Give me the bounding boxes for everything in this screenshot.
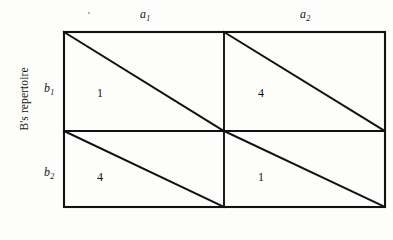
cell-diagonal-b2-a2 <box>224 131 385 207</box>
cell-diagonal-b1-a2 <box>224 32 385 131</box>
cell-value-b1-a2: 4 <box>253 86 269 101</box>
cell-diagonal-b2-a1 <box>64 131 224 207</box>
payoff-matrix-figure: B's repertoire a1 a2 b1 b2 1 4 4 1 <box>0 0 393 240</box>
matrix-grid <box>0 0 393 240</box>
cell-value-b2-a2: 1 <box>253 170 269 185</box>
cell-value-b2-a1: 4 <box>92 170 108 185</box>
scan-speck <box>88 12 90 14</box>
cell-diagonal-b1-a1 <box>64 32 224 131</box>
cell-value-b1-a1: 1 <box>92 86 108 101</box>
